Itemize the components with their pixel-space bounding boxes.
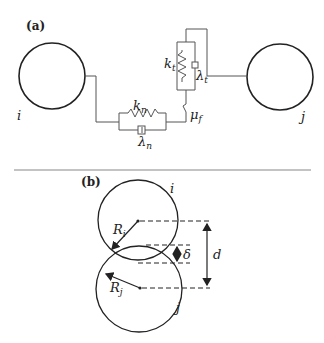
ri-label: Ri [112, 222, 126, 239]
delta-label: δ [183, 247, 191, 262]
kn-label: kn [133, 98, 147, 115]
particle-i-circle [19, 43, 85, 109]
particle-i-label: i [17, 108, 21, 123]
lambda-t-label: λt [195, 68, 208, 85]
friction-slider-icon [183, 90, 186, 112]
particle-i-label-b: i [170, 181, 174, 196]
tangential-contact-element [177, 29, 247, 90]
mu-f-label: μf [190, 107, 203, 124]
kt-label: kt [164, 56, 176, 73]
diagram-canvas: (a) i j kn λn kt λt μf (b) [0, 0, 324, 343]
lambda-n-label: λn [137, 134, 152, 151]
contact-model-diagram: (a) i j kn λn kt λt μf (b) [0, 0, 324, 343]
particle-j-label-b: j [173, 300, 180, 315]
panel-b-label: (b) [81, 175, 101, 189]
particle-j-label: j [298, 109, 305, 124]
tangential-spring-icon [178, 50, 186, 82]
rj-label: Rj [109, 280, 123, 297]
panel-a-label: (a) [26, 19, 45, 33]
particle-j-circle [247, 44, 313, 110]
distance-label: d [213, 247, 221, 262]
dimension-dashes [138, 221, 210, 288]
